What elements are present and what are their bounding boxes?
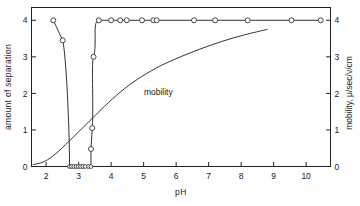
data-point <box>289 18 294 23</box>
data-point <box>140 18 145 23</box>
data-point <box>154 18 159 23</box>
x-tick-label: 2 <box>44 171 49 181</box>
data-point <box>318 18 323 23</box>
data-point <box>60 38 65 43</box>
y-tick-left-label: 3 <box>23 52 28 62</box>
data-point <box>109 18 114 23</box>
x-tick-label: 9 <box>271 171 276 181</box>
x-axis-label: pH <box>175 187 187 197</box>
chart-svg: 2345678910 01234 01234 pH amount of sepa… <box>0 0 360 206</box>
x-tick-label: 7 <box>206 171 211 181</box>
x-tick-label: 5 <box>141 171 146 181</box>
y-axis-left-label: amount of separation <box>3 44 13 130</box>
y-tick-right-label: 2 <box>335 89 340 99</box>
x-tick-label: 10 <box>301 171 311 181</box>
y-tick-left-label: 2 <box>23 89 28 99</box>
data-point <box>96 18 101 23</box>
y-tick-left-label: 4 <box>23 15 28 25</box>
x-tick-label: 4 <box>109 171 114 181</box>
y-tick-right-label: 1 <box>335 125 340 135</box>
data-point <box>88 146 93 151</box>
chart-figure: 2345678910 01234 01234 pH amount of sepa… <box>0 0 360 206</box>
y-tick-left-label: 1 <box>23 125 28 135</box>
data-point <box>213 18 218 23</box>
data-point <box>51 18 56 23</box>
y-tick-right-label: 0 <box>335 162 340 172</box>
x-tick-label: 3 <box>76 171 81 181</box>
mobility-curve-annotation: mobility <box>144 87 174 97</box>
y-tick-left-label: 0 <box>23 162 28 172</box>
data-point <box>124 18 129 23</box>
data-point <box>245 18 250 23</box>
y-axis-right-label: mobility, μ/sec/v/cm <box>344 56 354 130</box>
data-point <box>91 54 96 59</box>
data-point <box>89 165 93 169</box>
y-tick-right-label: 4 <box>335 15 340 25</box>
y-tick-right-label: 3 <box>335 52 340 62</box>
data-point <box>118 18 123 23</box>
x-tick-label: 8 <box>239 171 244 181</box>
x-tick-label: 6 <box>174 171 179 181</box>
data-point <box>90 126 95 131</box>
data-point <box>192 18 197 23</box>
